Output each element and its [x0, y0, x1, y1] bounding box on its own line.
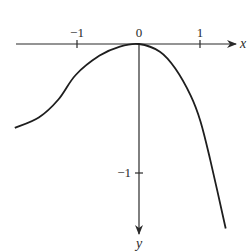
- x-axis-label: x: [239, 36, 247, 51]
- chart-canvas: −1 0 1 −1 x y: [0, 0, 252, 252]
- function-curve: [15, 44, 226, 229]
- y-tick-label-neg1: −1: [117, 165, 131, 180]
- x-tick-label-neg1: −1: [70, 25, 84, 40]
- y-axis-label: y: [134, 236, 143, 251]
- x-tick-label-0: 0: [136, 25, 143, 40]
- x-tick-label-1: 1: [197, 25, 204, 40]
